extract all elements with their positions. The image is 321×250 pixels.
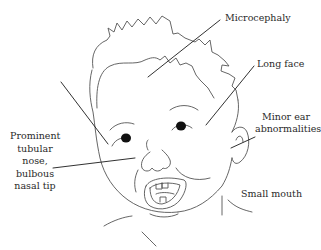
leader-microcephaly	[148, 20, 220, 77]
label-minor-ear-abnormalities: Minor ear abnormalities	[255, 111, 317, 135]
label-nose-line5: nasal tip	[10, 180, 60, 193]
neck-left	[104, 216, 132, 226]
ear-outline	[232, 127, 249, 163]
lower-teeth	[160, 197, 166, 202]
nose	[141, 150, 170, 171]
face-left-contour	[90, 70, 178, 213]
label-nose-line2: tubular	[10, 143, 60, 156]
neck-center	[142, 232, 156, 246]
right-eyebrow	[170, 106, 198, 111]
label-microcephaly: Microcephaly	[225, 12, 291, 24]
tongue	[156, 193, 174, 195]
hairline	[97, 56, 214, 108]
left-cheek-fold	[135, 170, 138, 192]
hair-outline	[93, 16, 238, 100]
leader-prominent-nose-left	[61, 82, 108, 144]
nose-bridge	[147, 140, 149, 150]
ear-inner	[236, 136, 243, 142]
label-nose-line3: nose,	[10, 155, 60, 168]
label-prominent-tubular-nose: Prominent tubular nose, bulbous nasal ti…	[10, 130, 60, 193]
label-ear-line1: Minor ear	[255, 111, 317, 123]
cheek-fold	[176, 168, 210, 180]
lower-lip-fold	[150, 214, 178, 217]
leader-nose	[53, 158, 135, 168]
mouth-inner	[150, 183, 180, 204]
left-eyebrow	[110, 123, 134, 130]
label-ear-line2: abnormalities	[255, 123, 317, 135]
label-small-mouth: Small mouth	[241, 188, 302, 200]
label-nose-line1: Prominent	[10, 130, 60, 143]
label-long-face: Long face	[257, 58, 304, 70]
label-nose-line4: bulbous	[10, 168, 60, 181]
right-eye	[176, 122, 186, 131]
left-eye	[121, 134, 131, 143]
